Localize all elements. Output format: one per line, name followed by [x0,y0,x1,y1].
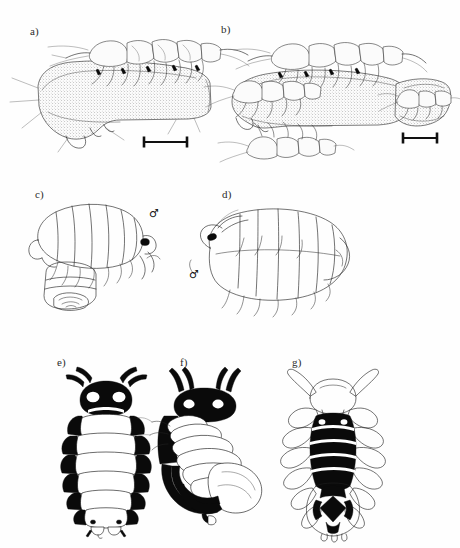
panel-d [196,198,356,323]
scale-bar-a [138,133,194,151]
attached-male-c [147,255,160,259]
pereon-e [61,414,152,528]
panel-f-drawing [156,368,276,528]
panel-c-drawing [28,192,168,317]
panel-f [156,368,276,528]
panel-label-f: f) [180,356,188,368]
panel-e [58,366,166,538]
figure-plate: a) [0,0,460,548]
panel-a [28,28,228,153]
panel-g [272,366,396,542]
antennae-g [287,369,378,396]
amphipod-b-ventral [218,122,354,162]
panel-a-drawing [28,28,228,153]
isopod-female-d [200,209,349,317]
sex-symbol-male-d: ♂ [189,268,199,281]
panel-d-drawing [196,198,356,323]
panel-c [28,192,168,317]
ventral-trunk-g [310,413,356,491]
panel-e-drawing [58,366,166,538]
uropods-e [86,527,126,538]
sex-symbol-male-c: ♂ [149,207,159,220]
panel-g-drawing [272,366,396,542]
cephalon-e [80,381,132,416]
isopod-female-c [29,204,156,310]
scale-bar-b [397,129,445,147]
